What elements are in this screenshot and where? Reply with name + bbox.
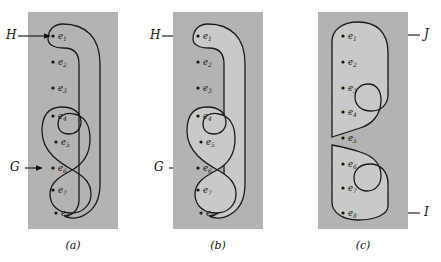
dot-e6: [51, 166, 54, 169]
label-g-panel-b: G: [154, 160, 164, 174]
figure-container: e1 e2 e3 e4 e5 e6 e7 e8: [0, 0, 441, 262]
panel-b-diagram: e1 e2 e3 e4 e5 e6 e7 e8: [173, 12, 263, 229]
label-h-panel-b: H: [150, 28, 160, 42]
panel-a: e1 e2 e3 e4 e5 e6 e7 e8: [28, 12, 118, 229]
dot-e7: [341, 186, 344, 189]
dot-e6: [196, 166, 199, 169]
dot-e4: [196, 114, 199, 117]
dot-e1: [196, 34, 199, 37]
panel-c: e1 e2 e3 e4 e5 e6 e7 e8: [318, 12, 408, 229]
label-h-panel-a: H: [6, 28, 16, 42]
dot-e4: [51, 114, 54, 117]
dot-e3: [51, 86, 54, 89]
caption-panel-c: (c): [318, 239, 408, 252]
dot-e5: [54, 140, 57, 143]
dot-e2: [51, 60, 54, 63]
label-i-panel-c: I: [424, 205, 429, 219]
dot-e7: [51, 188, 54, 191]
panel-b: e1 e2 e3 e4 e5 e6 e7 e8: [173, 12, 263, 229]
dot-e1: [341, 34, 344, 37]
dot-e8: [199, 211, 202, 214]
dot-e5: [341, 136, 344, 139]
dot-e4: [341, 110, 344, 113]
panel-a-background: [28, 12, 118, 229]
dot-e2: [341, 60, 344, 63]
dot-e7: [196, 188, 199, 191]
caption-panel-b: (b): [173, 239, 263, 252]
dot-e3: [341, 86, 344, 89]
label-j-panel-c: J: [424, 27, 429, 41]
panel-a-diagram: e1 e2 e3 e4 e5 e6 e7 e8: [28, 12, 118, 229]
dot-e8: [341, 211, 344, 214]
dot-e3: [196, 86, 199, 89]
panel-c-diagram: e1 e2 e3 e4 e5 e6 e7 e8: [318, 12, 408, 229]
dot-e1: [51, 34, 54, 37]
dot-e5: [199, 140, 202, 143]
dot-e6: [341, 162, 344, 165]
dot-e8: [54, 211, 57, 214]
dot-e2: [196, 60, 199, 63]
caption-panel-a: (a): [28, 239, 118, 252]
label-g-panel-a: G: [10, 160, 20, 174]
